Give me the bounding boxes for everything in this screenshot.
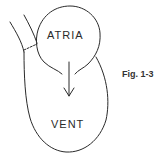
figure-caption: Fig. 1-3 xyxy=(122,70,154,79)
vessel-boundary-dashed xyxy=(24,44,37,50)
heart-diagram: ATRIA VENT Fig. 1-3 xyxy=(0,0,165,162)
atria-label: ATRIA xyxy=(47,30,84,41)
ventricle-outline xyxy=(24,52,108,152)
heart-diagram-drawing xyxy=(0,0,165,162)
vessel-inner-line xyxy=(24,15,37,43)
ventricle-label: VENT xyxy=(51,119,84,130)
vessel-outer-line xyxy=(10,22,24,52)
